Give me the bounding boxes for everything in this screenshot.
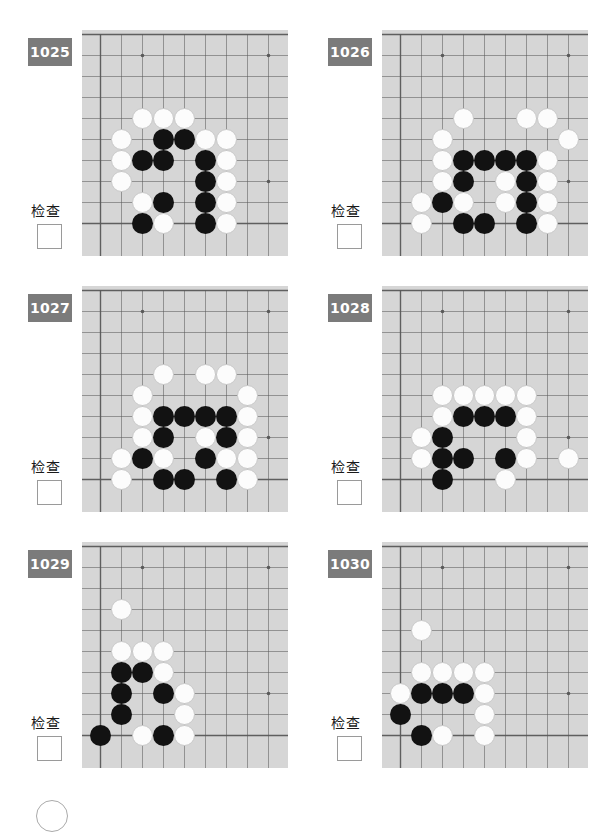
- white-stone: [195, 427, 216, 448]
- white-stone: [111, 599, 132, 620]
- black-stone: [453, 683, 474, 704]
- black-stone: [195, 192, 216, 213]
- black-stone: [453, 213, 474, 234]
- go-board[interactable]: [82, 30, 288, 256]
- white-stone: [537, 192, 558, 213]
- white-stone: [111, 641, 132, 662]
- black-stone: [132, 150, 153, 171]
- black-stone: [432, 469, 453, 490]
- white-stone: [216, 364, 237, 385]
- black-stone: [432, 683, 453, 704]
- white-stone: [411, 662, 432, 683]
- white-stone: [453, 385, 474, 406]
- white-stone: [453, 192, 474, 213]
- black-stone: [453, 406, 474, 427]
- black-stone: [174, 469, 195, 490]
- problem-side-panel: 1026检查: [300, 30, 378, 256]
- black-stone: [195, 171, 216, 192]
- black-stone: [390, 704, 411, 725]
- black-stone: [516, 150, 537, 171]
- black-stone: [153, 129, 174, 150]
- white-stone: [432, 171, 453, 192]
- white-stone: [516, 406, 537, 427]
- white-stone: [432, 129, 453, 150]
- black-stone: [90, 725, 111, 746]
- black-stone: [495, 406, 516, 427]
- white-stone: [153, 662, 174, 683]
- stone-layer: [382, 542, 588, 768]
- stone-layer: [82, 542, 288, 768]
- white-stone: [111, 129, 132, 150]
- white-stone: [216, 171, 237, 192]
- check-checkbox[interactable]: [37, 480, 62, 505]
- white-stone: [132, 192, 153, 213]
- white-stone: [174, 108, 195, 129]
- go-problem: 1029检查: [0, 542, 288, 768]
- problem-number-badge: 1029: [28, 550, 72, 578]
- black-stone: [111, 662, 132, 683]
- go-board[interactable]: [82, 286, 288, 512]
- go-problem: 1025检查: [0, 30, 288, 256]
- check-checkbox[interactable]: [337, 224, 362, 249]
- white-stone: [516, 427, 537, 448]
- white-stone: [432, 725, 453, 746]
- white-stone: [237, 406, 258, 427]
- problem-side-panel: 1030检查: [300, 542, 378, 768]
- black-stone: [432, 448, 453, 469]
- white-stone: [111, 171, 132, 192]
- white-stone: [474, 662, 495, 683]
- white-stone: [516, 448, 537, 469]
- black-stone: [453, 150, 474, 171]
- white-stone: [495, 385, 516, 406]
- problem-side-panel: 1029检查: [0, 542, 78, 768]
- white-stone: [411, 448, 432, 469]
- go-problem: 1028检查: [300, 286, 588, 512]
- white-stone: [453, 662, 474, 683]
- go-board[interactable]: [382, 542, 588, 768]
- white-stone: [216, 448, 237, 469]
- black-stone: [495, 150, 516, 171]
- white-stone: [237, 448, 258, 469]
- problem-number-badge: 1026: [328, 38, 372, 66]
- go-board[interactable]: [382, 30, 588, 256]
- stone-layer: [82, 286, 288, 512]
- white-stone: [153, 448, 174, 469]
- black-stone: [174, 406, 195, 427]
- white-stone: [111, 150, 132, 171]
- black-stone: [516, 171, 537, 192]
- black-stone: [195, 150, 216, 171]
- white-stone: [216, 129, 237, 150]
- check-label: 检查: [331, 712, 361, 732]
- white-stone: [216, 213, 237, 234]
- black-stone: [153, 427, 174, 448]
- go-board[interactable]: [82, 542, 288, 768]
- white-stone: [132, 385, 153, 406]
- check-checkbox[interactable]: [337, 480, 362, 505]
- white-stone: [537, 150, 558, 171]
- black-stone: [111, 683, 132, 704]
- black-stone: [432, 192, 453, 213]
- check-label: 检查: [31, 712, 61, 732]
- black-stone: [495, 448, 516, 469]
- black-stone: [195, 213, 216, 234]
- white-stone: [390, 683, 411, 704]
- check-checkbox[interactable]: [337, 736, 362, 761]
- white-stone: [516, 108, 537, 129]
- black-stone: [153, 469, 174, 490]
- problem-side-panel: 1027检查: [0, 286, 78, 512]
- go-board[interactable]: [382, 286, 588, 512]
- white-stone: [453, 108, 474, 129]
- black-stone: [174, 129, 195, 150]
- white-stone: [495, 469, 516, 490]
- check-checkbox[interactable]: [37, 736, 62, 761]
- white-stone: [237, 469, 258, 490]
- black-stone: [153, 192, 174, 213]
- black-stone: [453, 171, 474, 192]
- black-stone: [153, 725, 174, 746]
- black-stone: [153, 406, 174, 427]
- check-checkbox[interactable]: [37, 224, 62, 249]
- white-stone: [432, 150, 453, 171]
- check-label: 检查: [31, 200, 61, 220]
- black-stone: [216, 406, 237, 427]
